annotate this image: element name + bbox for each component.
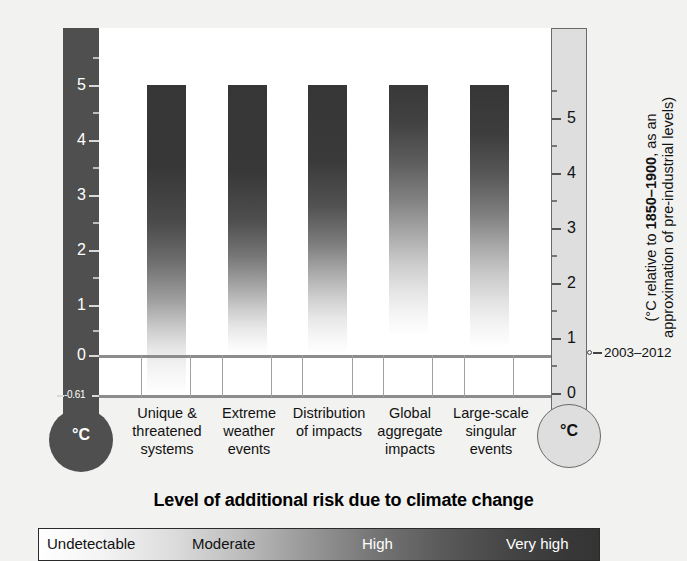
right-tick-mark <box>552 173 561 175</box>
right-axis-title-line1-prefix: (°C relative to <box>643 229 659 321</box>
recent-period-marker-dot <box>587 350 592 355</box>
right-minor-tick <box>552 365 557 367</box>
left-thermometer-bulb: °C <box>49 408 113 472</box>
category-separator <box>271 355 272 397</box>
category-line-1: Large-scale <box>443 404 539 422</box>
right-tick-label-5: 5 <box>567 109 593 127</box>
right-tick-label-2: 2 <box>567 274 593 292</box>
left-minimum-tick-left <box>57 395 64 397</box>
right-minor-tick <box>552 255 557 257</box>
right-tick-mark <box>552 228 561 230</box>
legend-label-very-high: Very high <box>506 535 569 552</box>
right-tick-label-1: 1 <box>567 329 593 347</box>
ember-bar-large-scale-singular-events <box>470 85 509 355</box>
left-tick-mark <box>89 305 99 307</box>
category-separator <box>222 355 223 397</box>
right-axis-title-line1-bold: 1850–1900 <box>643 157 659 230</box>
recent-period-marker-dash <box>593 352 602 354</box>
ember-gradient <box>470 85 509 355</box>
category-separator <box>464 355 465 397</box>
left-tick-mark <box>89 85 99 87</box>
axis-bottom-line <box>99 395 551 398</box>
left-axis-minimum-label: -0.61 <box>64 389 85 400</box>
recent-period-label: 2003–2012 <box>604 345 672 360</box>
ember-bar-unique-threatened-systems-below-zero <box>147 358 186 395</box>
left-minor-tick <box>93 222 99 224</box>
left-minor-tick <box>93 112 99 114</box>
right-thermometer-bulb: °C <box>537 404 601 468</box>
left-thermometer-unit: °C <box>49 426 113 444</box>
burning-embers-figure: Global mean temperature change (°C relat… <box>0 0 687 561</box>
left-tick-mark <box>89 140 99 142</box>
category-separator <box>141 355 142 397</box>
left-minor-tick <box>93 57 99 59</box>
category-separator <box>513 355 514 397</box>
category-line-3: events <box>443 440 539 458</box>
right-thermometer-unit: °C <box>538 422 600 440</box>
right-tick-mark <box>552 338 561 340</box>
ember-gradient <box>228 85 267 355</box>
category-label-large-scale-singular-events: Large-scale singular events <box>443 404 539 458</box>
legend-label-moderate: Moderate <box>192 535 255 552</box>
left-tick-label-0: 0 <box>60 346 86 364</box>
risk-level-legend: Undetectable Moderate High Very high <box>38 528 600 561</box>
left-tick-label-3: 3 <box>60 186 86 204</box>
category-line-2: singular <box>443 422 539 440</box>
left-minor-tick <box>93 277 99 279</box>
legend-label-high: High <box>362 535 393 552</box>
zero-degree-line <box>99 355 551 358</box>
left-tick-mark <box>89 195 99 197</box>
category-separator <box>432 355 433 397</box>
ember-bar-extreme-weather-events <box>228 85 267 355</box>
category-separator <box>190 355 191 397</box>
ember-gradient <box>308 85 347 355</box>
right-minor-tick <box>552 310 557 312</box>
ember-bar-global-aggregate-impacts <box>389 85 428 355</box>
right-tick-mark <box>552 393 561 395</box>
category-separator <box>383 355 384 397</box>
right-tick-mark <box>552 118 561 120</box>
right-tick-mark <box>552 283 561 285</box>
ember-bar-distribution-of-impacts <box>308 85 347 355</box>
left-tick-mark <box>89 250 99 252</box>
left-minor-tick <box>93 330 99 332</box>
right-tick-label-3: 3 <box>567 219 593 237</box>
ember-gradient <box>389 85 428 355</box>
ember-gradient-below-zero <box>147 358 186 395</box>
right-tick-label-4: 4 <box>567 164 593 182</box>
legend-title: Level of additional risk due to climate … <box>0 490 687 511</box>
right-minor-tick <box>552 200 557 202</box>
right-minor-tick <box>552 145 557 147</box>
left-tick-label-4: 4 <box>60 131 86 149</box>
category-separator <box>352 355 353 397</box>
legend-label-undetectable: Undetectable <box>47 535 135 552</box>
category-line-3: events <box>201 440 297 458</box>
ember-gradient <box>147 85 186 395</box>
right-minor-tick <box>552 90 557 92</box>
right-axis-title-line1-suffix: , as an <box>643 113 659 157</box>
right-tick-label-0: 0 <box>567 384 593 402</box>
left-minor-tick <box>93 167 99 169</box>
left-tick-mark <box>89 355 99 357</box>
left-minimum-tick-right <box>92 395 99 397</box>
category-separator <box>302 355 303 397</box>
left-tick-label-5: 5 <box>60 76 86 94</box>
ember-bar-unique-threatened-systems <box>147 85 186 395</box>
left-tick-label-1: 1 <box>60 296 86 314</box>
left-tick-label-2: 2 <box>60 241 86 259</box>
